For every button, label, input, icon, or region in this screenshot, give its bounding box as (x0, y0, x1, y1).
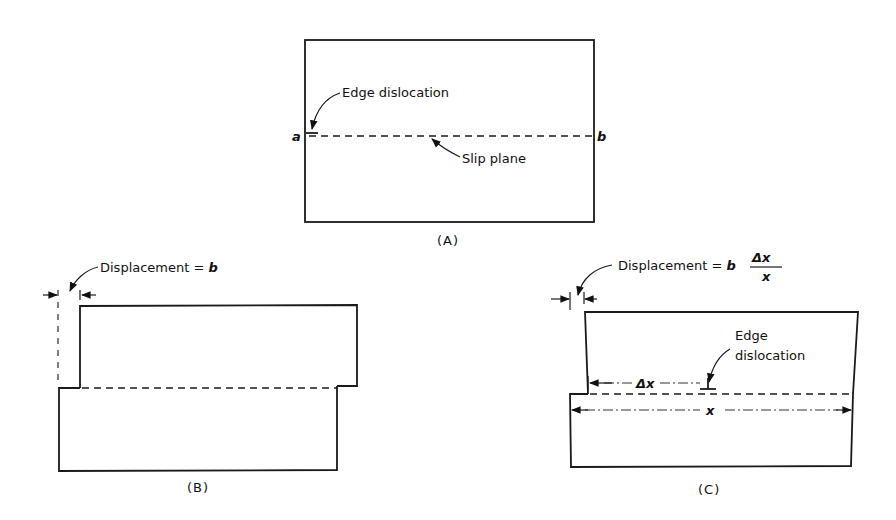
fraction-numerator: Δx (751, 250, 771, 265)
slip-plane-label: Slip plane (462, 151, 526, 166)
displacement-arrow (578, 265, 612, 295)
point-a-label: a (292, 129, 301, 144)
point-b-label: b (597, 129, 606, 144)
caption-c: (C) (698, 482, 720, 497)
slip-plane-arrow (432, 139, 460, 157)
upper-block (80, 305, 357, 388)
caption-a: (A) (437, 233, 459, 248)
fraction-denominator: x (761, 269, 771, 284)
upper-block (585, 312, 858, 394)
crystal-block (305, 40, 594, 222)
edge-dislocation-arrow (709, 349, 730, 382)
x-label: x (705, 403, 715, 418)
lower-block (59, 386, 337, 471)
edge-dislocation-label-line2: dislocation (735, 348, 805, 363)
burgers-vector-symbol: b (727, 258, 736, 273)
caption-b: (B) (187, 480, 209, 495)
displacement-arrow (70, 267, 98, 291)
displacement-text: Displacement = (618, 258, 727, 273)
displacement-text: Displacement = (100, 260, 209, 275)
edge-dislocation-label-line1: Edge (735, 328, 768, 343)
delta-x-label: Δx (635, 376, 655, 391)
dislocation-diagram: Edge dislocation Slip plane a b (A) Disp… (0, 0, 896, 520)
displacement-label: Displacement = b (618, 258, 736, 273)
panel-a: Edge dislocation Slip plane a b (A) (292, 40, 606, 248)
displacement-label: Displacement = b (100, 260, 218, 275)
edge-dislocation-label: Edge dislocation (342, 85, 449, 100)
burgers-vector-symbol: b (209, 260, 218, 275)
panel-b: Displacement = b (B) (43, 260, 357, 495)
edge-dislocation-arrow (312, 93, 340, 129)
panel-c: Displacement = b Δx x Edge dislocation Δ… (551, 250, 858, 497)
